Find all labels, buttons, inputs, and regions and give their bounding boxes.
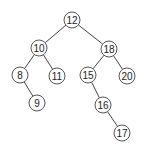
node-label: 12 [66, 15, 78, 26]
tree-node-11: 11 [49, 68, 65, 84]
tree-edge-10-8 [25, 55, 35, 69]
tree-node-9: 9 [29, 95, 45, 111]
node-label: 18 [103, 44, 115, 55]
node-label: 8 [17, 70, 23, 81]
node-label: 9 [34, 98, 40, 109]
tree-node-18: 18 [101, 41, 117, 57]
tree-edge-12-10 [45, 25, 66, 43]
tree-node-12: 12 [64, 12, 80, 28]
tree-edge-18-20 [113, 56, 122, 70]
node-label: 20 [121, 71, 133, 82]
node-label: 10 [33, 43, 45, 54]
tree-nodes: 121018811152091617 [12, 12, 135, 141]
tree-edge-8-9 [24, 82, 33, 96]
tree-edge-15-16 [92, 82, 100, 98]
tree-node-16: 16 [95, 97, 111, 113]
tree-node-10: 10 [31, 40, 47, 56]
tree-edge-16-17 [107, 112, 117, 127]
tree-edge-18-15 [93, 55, 104, 69]
tree-edge-12-18 [78, 25, 102, 44]
node-label: 11 [52, 71, 63, 82]
node-label: 17 [116, 128, 128, 139]
tree-node-17: 17 [114, 125, 130, 141]
tree-node-20: 20 [119, 68, 135, 84]
node-label: 16 [97, 100, 109, 111]
binary-tree-diagram: 121018811152091617 [0, 0, 143, 152]
tree-node-15: 15 [80, 67, 96, 83]
tree-node-8: 8 [12, 67, 28, 83]
node-label: 15 [82, 70, 94, 81]
tree-edge-10-11 [43, 55, 52, 70]
